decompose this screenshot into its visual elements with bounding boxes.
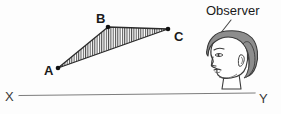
horizon-end-label-y: Y bbox=[259, 91, 268, 106]
diagram-svg: X Y A B C bbox=[0, 0, 281, 114]
horizon-line bbox=[19, 93, 255, 96]
horizon-line-group: X Y bbox=[5, 89, 268, 106]
vertex-label-c: C bbox=[174, 29, 184, 44]
vertex-dot-b bbox=[106, 25, 111, 30]
observer-head-group bbox=[207, 20, 258, 89]
triangle-abc-group: A B C bbox=[44, 11, 184, 78]
vertex-label-b: B bbox=[96, 11, 105, 26]
figure-canvas: X Y A B C bbox=[0, 0, 281, 114]
vertex-dot-c bbox=[166, 27, 171, 32]
vertex-label-a: A bbox=[44, 63, 54, 78]
vertex-dot-a bbox=[56, 66, 61, 71]
horizon-start-label-x: X bbox=[5, 89, 14, 104]
observer-callout-label: Observer bbox=[206, 3, 260, 18]
pupil-shape bbox=[217, 54, 219, 56]
